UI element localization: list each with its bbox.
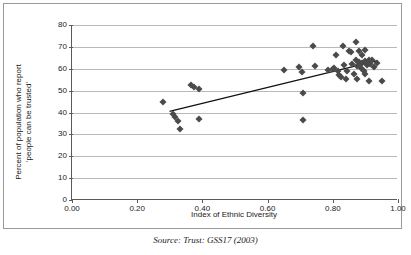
x-tick-mark xyxy=(72,199,73,203)
x-tick-mark xyxy=(137,199,138,203)
y-tick-label: 60 xyxy=(58,65,67,73)
plot-area: 01020304050607080 0.000.200.400.600.801.… xyxy=(71,25,397,200)
y-axis-title: Percent of population who report 'people… xyxy=(14,42,34,202)
y-tick-label: 20 xyxy=(58,152,67,160)
chart-figure: 01020304050607080 0.000.200.400.600.801.… xyxy=(0,0,411,255)
y-tick-label: 40 xyxy=(58,109,67,117)
y-axis-title-line2: 'people can be trusted' xyxy=(24,42,34,202)
x-tick-mark xyxy=(268,199,269,203)
y-tick-label: 80 xyxy=(58,21,67,29)
x-tick-mark xyxy=(398,199,399,203)
x-tick-mark xyxy=(202,199,203,203)
y-tick-label: 30 xyxy=(58,130,67,138)
y-tick-label: 10 xyxy=(58,174,67,182)
y-tick-label: 70 xyxy=(58,43,67,51)
chart-border-frame: 01020304050607080 0.000.200.400.600.801.… xyxy=(3,3,402,229)
source-caption: Source: Trust: GSS17 (2003) xyxy=(0,236,411,245)
x-tick-mark xyxy=(333,199,334,203)
x-axis-title: Index of Ethnic Diversity xyxy=(71,211,397,220)
y-tick-label: 50 xyxy=(58,87,67,95)
y-axis-title-line1: Percent of population who report xyxy=(14,42,24,202)
y-tick-label: 0 xyxy=(63,196,67,204)
